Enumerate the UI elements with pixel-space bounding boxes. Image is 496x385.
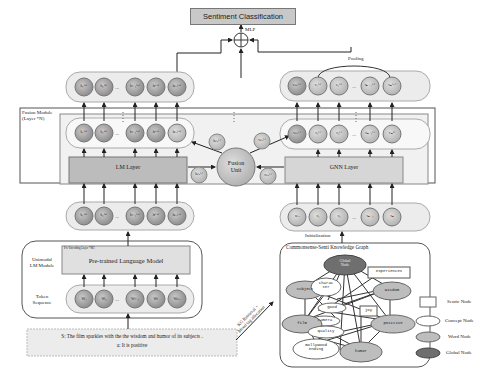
lm-input-node: h₁⁽ᴹ⁾ — [76, 214, 92, 218]
gnn-mid-node: v₂⁽ˡ⁾ — [331, 132, 347, 136]
gnn-mid-node: v₁⁽ˡ⁾ — [310, 132, 326, 136]
ellipsis: ... — [351, 84, 357, 90]
fusion-small-node: hₚₐ⁽ˡ⁾ — [191, 173, 207, 177]
gnn-input-node: vₚₐ — [289, 215, 305, 219]
architecture-diagram — [0, 0, 496, 385]
gnn-mid-node: vₙ₋₁⁽ˡ⁾ — [362, 132, 378, 136]
pre-encoding-note: Pre-Encoding Layer *M1 — [64, 247, 95, 250]
ellipsis: ... — [351, 215, 357, 221]
kg-concept-quality: quality — [308, 329, 344, 333]
gnn-input-node: v₁ — [310, 215, 326, 219]
gnn-mid-node: vₙ⁽ˡ⁾ — [384, 132, 400, 136]
gnn-mid-node: vₚₐ⁽ˡ⁾ — [289, 132, 305, 136]
input-label: a: It is positive — [27, 343, 237, 349]
lm-mid-node: h₁⁽ᴹ⁾ — [76, 131, 92, 135]
lm-input-node: h₂⁽ᴹ⁾ — [96, 214, 112, 218]
kg-global-node: GlobalNode — [325, 259, 365, 268]
lm-layer: LM Layer — [69, 164, 187, 171]
sentiment-classification-output: Sentiment Classification — [190, 8, 296, 25]
token-sequence-label: TokenSequence — [24, 294, 60, 305]
ellipsis: ... — [114, 297, 120, 303]
lm-top-node: hₜ₋₁⁽ᴹ⁾ — [127, 85, 143, 89]
gnn-top-node: v₁⁽ᴺ⁾ — [310, 84, 326, 88]
ellipsis: ... — [114, 214, 120, 220]
gnn-layer: GNN Layer — [285, 164, 403, 171]
lm-top-node: h₂⁽ᴹ⁾ — [96, 85, 112, 89]
fusion-small-node: vₚₐ⁽ˡ⁾ — [254, 139, 270, 143]
aggregation-plus-icon — [234, 33, 248, 47]
lm-top-node: hₜ⁽ᴹ⁾ — [148, 85, 164, 89]
input-sentence: S: The film sparkles with the the wisdom… — [27, 334, 237, 340]
gnn-top-node: vₙ⁽ᴺ⁾ — [384, 84, 400, 88]
token-node: W₂ — [96, 297, 112, 301]
concept-node-legend-icon — [416, 316, 440, 326]
kg-word-humor: humor — [340, 349, 382, 353]
token-node: Wₜ — [148, 297, 164, 301]
fusion-small-node: vₚₐ⁽ˡ⁾ — [260, 174, 276, 178]
token-node: Wₜ₋₁ — [127, 297, 143, 301]
initialization-label: Initialization — [305, 233, 331, 239]
lm-input-node: hₜ₋₁⁽ᴹ⁾ — [127, 214, 143, 218]
legend-global-node: Global Node — [446, 350, 472, 356]
pre-trained-language-model: Pre-trained Language Model — [62, 257, 190, 264]
legend-word-node: Word Node — [448, 334, 471, 340]
kg-word-film: film — [282, 321, 322, 325]
kg-title: Commonsense-Senti Knowledge Graph — [286, 245, 368, 251]
gnn-input-node: v₂ — [331, 215, 347, 219]
word-node-legend-icon — [416, 332, 440, 342]
global-node-legend-icon — [416, 348, 440, 358]
kg-concept-character: character — [311, 281, 341, 290]
kg-sentic-experiences: experiences — [368, 269, 410, 273]
kg-concept-good: good — [318, 305, 346, 309]
gnn-input-node: vₙ₋₁ — [362, 215, 378, 219]
legend-sentic-node: Sentic Node — [447, 299, 472, 305]
lm-input-node: hₜ⁽ᴹ⁾ — [148, 214, 164, 218]
lm-mid-node: hₜ₋₁⁽ᴹ⁾ — [127, 131, 143, 135]
lm-top-node: hₚₐ⁽ᴹ⁾ — [169, 85, 185, 89]
fusion-small-node: hₚₐ⁽ˡ⁾ — [209, 140, 225, 144]
fusion-unit: FusionUnit — [217, 160, 255, 173]
sentic-node-legend-icon — [420, 297, 436, 307]
kg-word-wisdom: wisdom — [373, 288, 411, 292]
ellipsis: ... — [114, 131, 120, 137]
unimodal-lm-module-label: UnimodalLM Module — [24, 257, 60, 268]
gnn-top-node: v₂⁽ᴺ⁾ — [331, 84, 347, 88]
gnn-input-node: vₙ — [384, 215, 400, 219]
token-node: Wₚₐ — [169, 297, 185, 301]
ellipsis: ... — [351, 132, 357, 138]
lm-mid-node: hₚₐ⁽ᴹ⁾ — [169, 131, 185, 135]
gnn-top-node: vₙ₋₁⁽ᴺ⁾ — [362, 84, 378, 88]
kg-concept-bollywood-ending: Bollywoodending — [293, 343, 339, 352]
legend-concept-node: Concept Node — [445, 318, 474, 324]
lm-input-node: hₚₐ⁽ᴹ⁾ — [169, 214, 185, 218]
lm-mid-node: hₜ⁽ᴹ⁾ — [148, 131, 164, 135]
gnn-top-node: vₚₐ⁽ᴺ⁾ — [289, 84, 305, 88]
pooling-label: Pooling — [348, 56, 364, 62]
fusion-module-label: Fusion Module(Layer *N) — [22, 110, 52, 121]
lm-top-node: h₁⁽ᴹ⁾ — [76, 85, 92, 89]
kg-sentic-joy: joy — [360, 308, 377, 312]
token-node: W₁ — [76, 297, 92, 301]
mlp-label: MLP — [245, 27, 255, 33]
kg-word-positive: positive — [371, 321, 415, 325]
ellipsis: ... — [114, 85, 120, 91]
lm-mid-node: h₂⁽ᴹ⁾ — [96, 131, 112, 135]
